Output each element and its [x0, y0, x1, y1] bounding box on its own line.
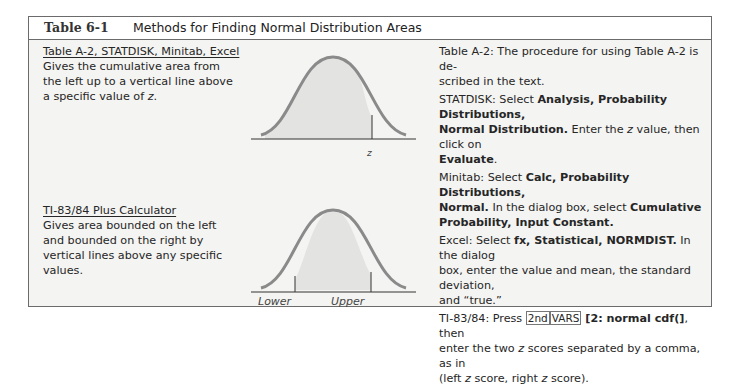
- instruction-ti: TI-83/84: Press 2ndVARS [2: normal cdf(]…: [439, 311, 709, 386]
- upper-label: Upper: [331, 295, 364, 308]
- method-description: Gives the cumulative area from the left …: [43, 59, 273, 104]
- normal-curve-left-area-figure: [251, 47, 416, 152]
- key-2nd: 2nd: [526, 311, 550, 325]
- method-heading: Table A-2, STATDISK, Minitab, Excel: [43, 44, 273, 59]
- instruction-excel: Excel: Select fx, Statistical, NORMDIST.…: [439, 233, 709, 308]
- method-block-ti-calculator: TI-83/84 Plus Calculator Gives area boun…: [43, 203, 273, 278]
- normal-curve-between-figure: [251, 200, 416, 305]
- table-title: Methods for Finding Normal Distribution …: [133, 20, 422, 35]
- instructions-column: Table A-2: The procedure for using Table…: [439, 44, 709, 388]
- method-description: Gives area bounded on the left and bound…: [43, 218, 273, 278]
- lower-label: Lower: [258, 295, 291, 308]
- method-heading: TI-83/84 Plus Calculator: [43, 203, 273, 218]
- instruction-table-a2: Table A-2: The procedure for using Table…: [439, 44, 709, 89]
- z-label: z: [367, 148, 372, 158]
- normal-distribution-methods-table: Table 6-1 Methods for Finding Normal Dis…: [28, 16, 712, 307]
- key-vars: VARS: [550, 311, 582, 325]
- instruction-minitab: Minitab: Select Calc, Probability Distri…: [439, 170, 709, 230]
- instruction-statdisk: STATDISK: Select Analysis, Probability D…: [439, 92, 709, 167]
- table-number: Table 6-1: [44, 20, 109, 35]
- method-block-table-a2: Table A-2, STATDISK, Minitab, Excel Give…: [43, 44, 273, 104]
- table-header: Table 6-1 Methods for Finding Normal Dis…: [29, 17, 711, 40]
